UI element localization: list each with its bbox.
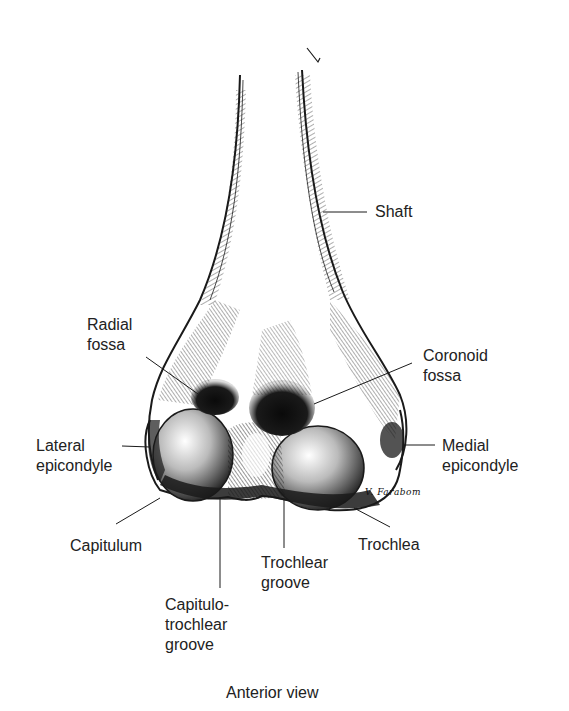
label-capitulotrochlear-groove: Capitulo- trochlear groove (165, 595, 229, 655)
label-coronoid-fossa: Coronoid fossa (423, 346, 488, 386)
leader-capitulum (116, 498, 160, 524)
label-radial-fossa: Radial fossa (87, 315, 132, 355)
shaft-shading-lateral (200, 90, 246, 305)
view-caption: Anterior view (226, 683, 318, 703)
label-trochlea: Trochlea (358, 535, 420, 555)
artist-signature: V. Farabom (365, 487, 421, 497)
label-shaft: Shaft (375, 202, 412, 222)
label-capitulum: Capitulum (70, 536, 142, 556)
label-medial-epicondyle: Medial epicondyle (442, 436, 519, 476)
label-lateral-epicondyle: Lateral epicondyle (36, 436, 113, 476)
radial-fossa-shape (191, 379, 239, 415)
humerus-anterior-diagram: Shaft Radial fossa Coronoid fossa Latera… (0, 0, 569, 711)
label-trochlear-groove: Trochlear groove (261, 553, 328, 593)
leader-trochlea (354, 508, 390, 527)
shaft-shading-medial (295, 75, 350, 300)
